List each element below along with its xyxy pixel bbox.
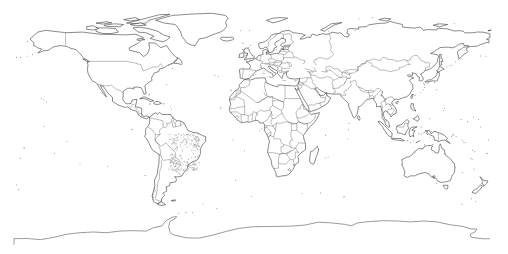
island: [41, 98, 42, 99]
world-map: [0, 0, 508, 254]
island: [328, 156, 329, 157]
island: [27, 41, 28, 42]
island: [251, 196, 252, 197]
island: [478, 119, 479, 120]
island: [33, 45, 34, 46]
island: [443, 110, 444, 111]
island: [421, 134, 422, 135]
island: [454, 23, 455, 24]
island: [301, 193, 302, 194]
island: [23, 147, 24, 148]
greenland: [156, 13, 229, 45]
island: [263, 73, 264, 74]
new-siberian-islands: [433, 24, 448, 27]
japan-honshu: [425, 72, 440, 82]
island: [20, 57, 21, 58]
island: [320, 193, 321, 194]
island: [253, 75, 254, 76]
island: [261, 128, 262, 129]
island: [463, 142, 464, 143]
island: [453, 134, 454, 135]
island: [66, 141, 67, 142]
island: [410, 142, 411, 143]
island: [270, 77, 271, 78]
island: [465, 142, 466, 143]
island: [153, 199, 154, 200]
island: [436, 70, 437, 71]
island: [458, 59, 459, 60]
island: [355, 30, 356, 31]
island: [107, 166, 108, 167]
island: [413, 140, 414, 141]
island: [220, 106, 221, 107]
island: [447, 66, 448, 67]
island: [325, 158, 326, 159]
island: [153, 197, 154, 198]
island: [444, 108, 445, 109]
island: [172, 200, 173, 201]
island: [274, 50, 275, 51]
island: [16, 184, 17, 185]
island: [404, 140, 405, 141]
island: [243, 51, 244, 52]
island: [276, 49, 277, 50]
island: [467, 121, 468, 122]
island: [471, 198, 472, 199]
sumatra: [378, 121, 392, 137]
philippines-luzon: [411, 104, 416, 112]
ireland: [239, 53, 244, 58]
island: [436, 183, 437, 184]
subdivision-line: [189, 170, 190, 171]
island: [170, 106, 171, 107]
tasmania: [443, 185, 448, 189]
island: [24, 148, 25, 149]
island: [154, 187, 155, 188]
island: [266, 53, 267, 54]
arctic-archipelago-a: [104, 24, 124, 27]
new-zealand-north: [480, 177, 488, 187]
island: [420, 127, 421, 128]
island: [295, 81, 296, 82]
island: [235, 180, 236, 181]
island: [16, 57, 17, 58]
island: [424, 87, 425, 88]
subdivision-line: [188, 167, 189, 168]
island: [429, 118, 430, 119]
island: [27, 56, 28, 57]
island: [203, 203, 204, 204]
north-america: [30, 30, 178, 119]
island: [423, 83, 424, 84]
island: [450, 65, 451, 66]
island: [424, 84, 425, 85]
island: [216, 208, 217, 209]
iceland: [220, 37, 234, 41]
island: [431, 131, 432, 132]
island: [472, 150, 473, 151]
island: [470, 158, 471, 159]
island: [171, 63, 172, 64]
island: [406, 140, 407, 141]
island: [271, 77, 272, 78]
island: [259, 130, 260, 131]
island: [249, 30, 250, 31]
island: [214, 75, 215, 76]
subdivision-line: [187, 170, 188, 171]
antarctica-coastline: [14, 217, 490, 245]
island: [424, 144, 425, 145]
island: [171, 108, 172, 109]
island: [80, 163, 81, 164]
great-britain: [244, 48, 254, 60]
island: [437, 23, 438, 24]
island: [145, 175, 146, 176]
island: [480, 127, 481, 128]
island: [473, 116, 474, 117]
island: [434, 82, 435, 83]
island: [328, 31, 329, 32]
island: [428, 82, 429, 83]
cuba: [140, 97, 154, 102]
victoria-island: [96, 28, 118, 34]
madagascar: [310, 146, 319, 164]
island: [248, 47, 249, 48]
island: [427, 83, 428, 84]
world-map-canvas: [0, 0, 508, 254]
